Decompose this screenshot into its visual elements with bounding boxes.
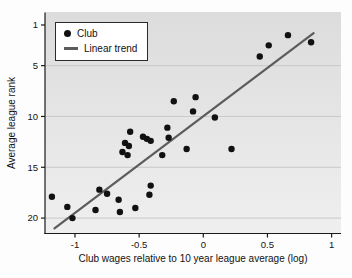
data-point-8 <box>164 124 170 130</box>
data-point-15 <box>126 143 132 149</box>
data-point-16 <box>183 146 189 152</box>
data-point-9 <box>127 129 133 135</box>
data-point-26 <box>115 197 121 203</box>
data-point-22 <box>96 186 102 192</box>
y-tick-label-15: 15 <box>27 162 38 173</box>
data-point-30 <box>117 209 123 215</box>
x-tick-label-0: 0 <box>201 239 206 250</box>
x-tick-label--0.5: -0.5 <box>131 239 147 250</box>
data-point-2 <box>266 42 272 48</box>
legend-item-club: Club <box>64 28 137 39</box>
data-point-27 <box>64 204 70 210</box>
data-point-7 <box>212 114 218 120</box>
data-point-11 <box>165 135 171 141</box>
trend-line <box>54 33 313 228</box>
data-point-13 <box>147 138 153 144</box>
data-point-4 <box>192 94 198 100</box>
data-point-1 <box>308 39 314 45</box>
data-point-3 <box>257 53 263 59</box>
y-tick-label-10: 10 <box>27 111 38 122</box>
y-tick-label-20: 20 <box>27 212 38 223</box>
data-point-23 <box>104 191 110 197</box>
y-tick-label-1: 1 <box>33 19 38 30</box>
data-point-25 <box>49 194 55 200</box>
data-point-5 <box>171 98 177 104</box>
plot-area: 15101520-1-0.500.51 <box>0 0 352 278</box>
data-point-29 <box>92 207 98 213</box>
x-tick-label-0.5: 0.5 <box>261 239 274 250</box>
data-point-31 <box>69 215 75 221</box>
club-point-icon <box>64 30 71 37</box>
x-tick-label--1: -1 <box>71 239 79 250</box>
legend-label-linear-trend: Linear trend <box>84 43 137 54</box>
x-tick-label-1: 1 <box>329 239 334 250</box>
legend: Club Linear trend <box>55 22 148 61</box>
data-point-24 <box>146 192 152 198</box>
legend-label-club: Club <box>77 28 98 39</box>
data-point-28 <box>132 205 138 211</box>
y-axis-title: Average league rank <box>6 13 18 234</box>
y-tick-label-5: 5 <box>33 60 38 71</box>
legend-item-linear-trend: Linear trend <box>64 43 137 54</box>
data-point-20 <box>159 152 165 158</box>
data-point-21 <box>147 182 153 188</box>
scatter-chart-figure: 15101520-1-0.500.51 Club Linear trend Cl… <box>0 0 352 278</box>
trend-line-icon <box>64 47 78 50</box>
data-point-17 <box>228 146 234 152</box>
data-point-6 <box>190 108 196 114</box>
data-point-0 <box>285 32 291 38</box>
data-point-19 <box>124 152 130 158</box>
x-axis-title: Club wages relative to 10 year league av… <box>45 253 341 264</box>
